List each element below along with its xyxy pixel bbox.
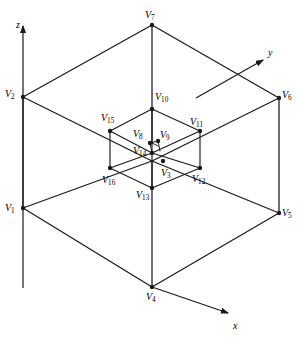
vertex-label-v6: V6 (282, 90, 292, 100)
vertex-label-v1: V1 (5, 203, 15, 213)
outer-edge-6 (152, 213, 279, 287)
vertex-dot-v5 (277, 211, 281, 215)
middle-edge-0 (110, 109, 152, 131)
figure-container: V1V2V3V4V5V6V7V8V9V10V11V12V13V14V15V16 … (0, 0, 302, 346)
outer-cube-edges (23, 25, 279, 287)
vertex-label-index: 9 (166, 134, 170, 142)
vertex-label-index: 3 (167, 172, 171, 180)
axis-label-z: z (16, 20, 20, 30)
vertex-dot-v2 (21, 95, 25, 99)
vertex-markers (21, 23, 281, 289)
vertex-label-index: 7 (151, 14, 155, 22)
vertex-label-v7: V7 (145, 10, 155, 20)
vertex-label-v8: V8 (133, 129, 143, 139)
vertex-label-index: 11 (196, 121, 203, 129)
vertex-label-v15: V15 (101, 113, 114, 123)
vertex-dot-v1 (21, 206, 25, 210)
outer-edge-5 (23, 208, 152, 287)
vertex-dot-v11 (198, 129, 202, 133)
middle-cube-edges (110, 109, 200, 188)
vertex-label-v2: V2 (5, 89, 15, 99)
vertex-label-v3: V3 (161, 168, 171, 178)
axis-label-y: y (268, 48, 272, 58)
vertex-label-index: 16 (108, 179, 115, 187)
vertex-dot-v16 (108, 166, 112, 170)
vertex-label-v12: V12 (192, 174, 205, 184)
vertex-label-v4: V4 (146, 292, 156, 302)
vertex-dot-v3 (161, 159, 165, 163)
vertex-label-index: 10 (161, 96, 168, 104)
axes-group (23, 26, 263, 313)
vertex-dot-v10 (150, 107, 154, 111)
vertex-dot-v8 (148, 141, 152, 145)
axis-y (196, 60, 263, 98)
inner-edge-1 (152, 143, 158, 146)
outer-edge-8 (152, 98, 279, 161)
vertex-label-v10: V10 (155, 92, 168, 102)
vertex-label-v13: V13 (136, 190, 149, 200)
outer-edge-10 (152, 161, 279, 213)
vertex-label-v5: V5 (282, 208, 292, 218)
vertex-label-index: 6 (288, 94, 292, 102)
vertex-label-index: 2 (11, 93, 15, 101)
axis-x (152, 287, 228, 313)
vertex-dot-v7 (150, 23, 154, 27)
vertex-dot-v6 (277, 96, 281, 100)
vertex-label-v11: V11 (190, 117, 203, 127)
vertex-label-index: 4 (152, 296, 156, 304)
vertex-label-v9: V9 (160, 130, 170, 140)
middle-edge-10 (152, 153, 200, 168)
vertex-label-index: 5 (288, 212, 292, 220)
vertex-label-index: 15 (107, 117, 114, 125)
outer-edge-9 (23, 161, 152, 208)
outer-edge-0 (23, 25, 152, 97)
axis-label-x: x (233, 321, 237, 331)
vertex-label-v16: V16 (102, 175, 115, 185)
vertex-dot-v12 (198, 166, 202, 170)
vertex-label-index: 8 (139, 133, 143, 141)
vertex-label-index: 14 (139, 150, 146, 158)
vertex-dot-v14 (150, 151, 154, 155)
vertex-dot-v13 (150, 186, 154, 190)
vertex-dot-v15 (108, 129, 112, 133)
middle-edge-5 (110, 168, 152, 188)
vertex-dot-v4 (150, 285, 154, 289)
vertex-label-index: 13 (142, 194, 149, 202)
vertex-label-index: 12 (198, 178, 205, 186)
vertex-label-v14: V14 (133, 146, 146, 156)
vertex-label-index: 1 (11, 207, 15, 215)
